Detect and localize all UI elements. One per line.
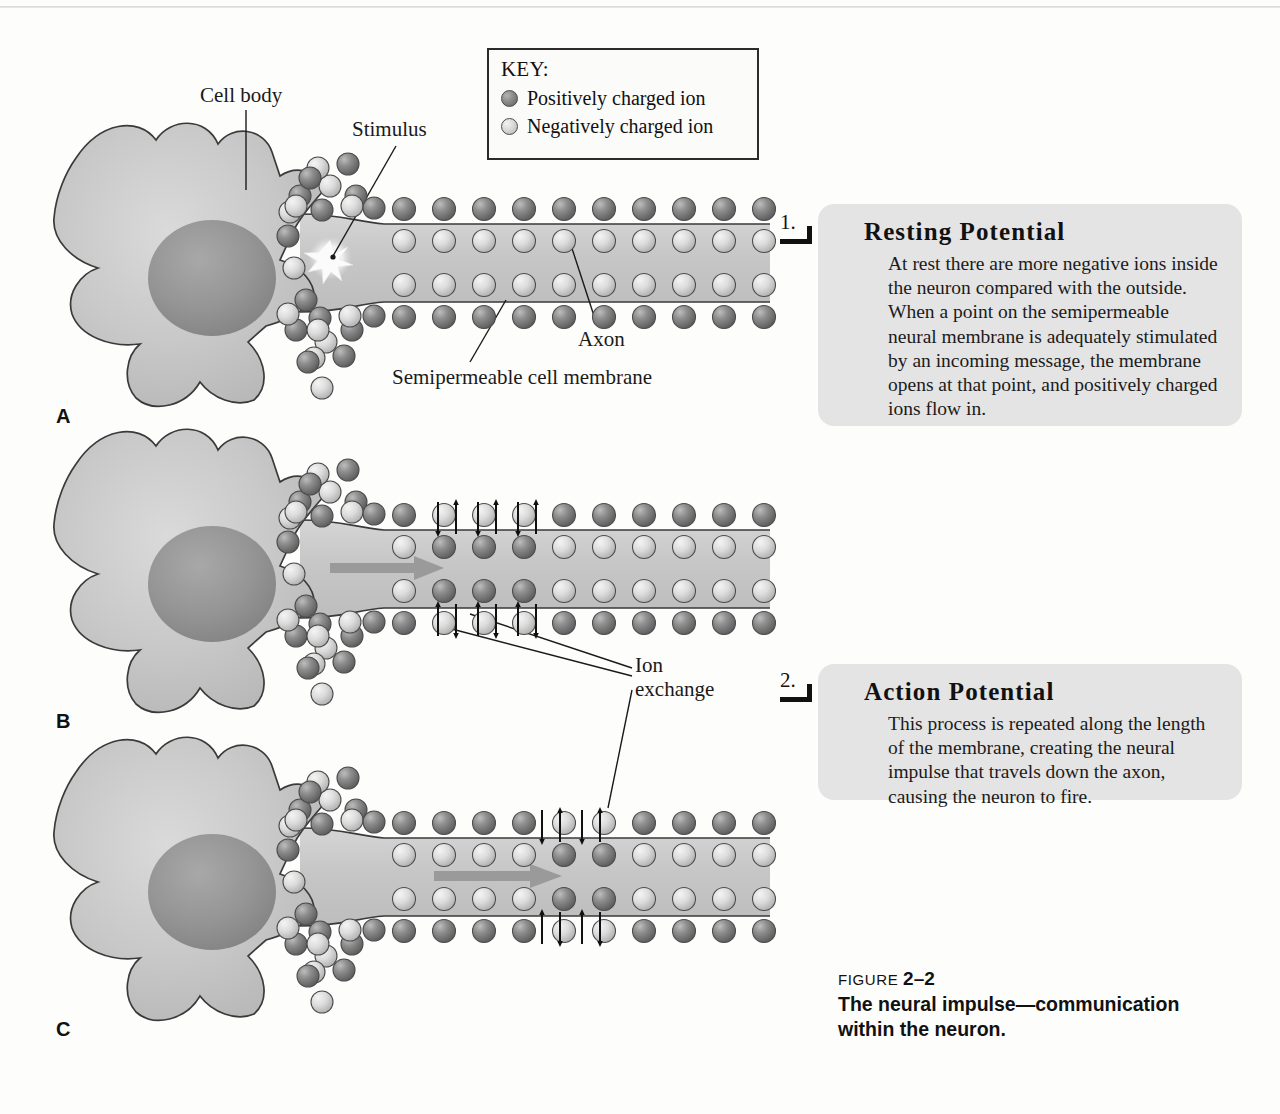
positive-ion: [713, 612, 736, 635]
neuron-illustration: [0, 0, 1280, 1114]
label-semipermeable-cell-membrane: Semipermeable cell membrane: [392, 366, 652, 390]
positive-ion: [673, 306, 696, 329]
positive-ion: [297, 351, 319, 373]
key-title: KEY:: [501, 57, 747, 82]
negative-ion: [283, 871, 305, 893]
positive-ion: [433, 306, 456, 329]
positive-ion: [553, 306, 576, 329]
positive-ion: [363, 611, 385, 633]
positive-ion: [393, 920, 416, 943]
positive-ion: [311, 813, 333, 835]
figure-number-line: FIGURE 2–2: [838, 968, 1238, 990]
negative-ion: [633, 536, 656, 559]
step-marker-2-tick: [807, 684, 812, 702]
positive-ion: [593, 888, 616, 911]
step-marker-2-number: 2.: [780, 668, 796, 693]
key-entry-positive: Positively charged ion: [501, 87, 747, 110]
negative-ion: [593, 580, 616, 603]
positive-ion: [363, 197, 385, 219]
negative-ion: [633, 580, 656, 603]
positive-ion: [513, 306, 536, 329]
negative-ion: [673, 888, 696, 911]
positive-ion: [713, 920, 736, 943]
negative-ion: [341, 809, 363, 831]
positive-ion: [593, 612, 616, 635]
negative-ion: [277, 917, 299, 939]
negative-ion: [553, 920, 576, 943]
negative-ion: [633, 230, 656, 253]
positive-ion: [673, 812, 696, 835]
positive-ion: [713, 198, 736, 221]
negative-ion: [513, 504, 536, 527]
negative-ion: [285, 809, 307, 831]
positive-ion: [433, 198, 456, 221]
callout-resting-potential: Resting Potential At rest there are more…: [818, 204, 1242, 426]
negative-ion: [713, 536, 736, 559]
label-ion-exchange-line1: Ion: [635, 654, 714, 678]
positive-ion: [513, 580, 536, 603]
positive-ion: [433, 536, 456, 559]
positive-ion: [299, 473, 321, 495]
negative-ion: [593, 274, 616, 297]
figure-canvas: Cell body Stimulus Axon Semipermeable ce…: [0, 0, 1280, 1114]
figure-number-prefix: FIGURE: [838, 971, 898, 988]
positive-ion: [333, 959, 355, 981]
positive-ion: [297, 965, 319, 987]
negative-ion: [753, 888, 776, 911]
positive-ion: [393, 198, 416, 221]
negative-ion: [633, 888, 656, 911]
negative-ion: [393, 274, 416, 297]
negative-ion: [713, 844, 736, 867]
positive-ion: [433, 812, 456, 835]
negative-ion: [513, 230, 536, 253]
positive-ion: [363, 919, 385, 941]
negative-ion: [513, 888, 536, 911]
positive-ion: [333, 345, 355, 367]
negative-ion: [553, 274, 576, 297]
positive-ion: [513, 812, 536, 835]
negative-ion: [633, 844, 656, 867]
positive-ion: [393, 504, 416, 527]
step-marker-1-number: 1.: [780, 210, 796, 235]
negative-ion: [285, 195, 307, 217]
negative-ion: [713, 230, 736, 253]
negative-ion: [553, 812, 576, 835]
positive-ion: [337, 153, 359, 175]
positive-ion: [633, 198, 656, 221]
positive-ion: [363, 305, 385, 327]
negative-ion: [473, 274, 496, 297]
negative-ion: [285, 501, 307, 523]
positive-ion: [513, 536, 536, 559]
positive-ion: [295, 595, 317, 617]
positive-ion: [363, 811, 385, 833]
positive-ion: [753, 306, 776, 329]
positive-ion: [473, 536, 496, 559]
positive-ion: [473, 580, 496, 603]
negative-ion: [753, 230, 776, 253]
positive-ion: [337, 459, 359, 481]
positive-ion: [593, 504, 616, 527]
positive-ion: [673, 612, 696, 635]
figure-title: The neural impulse—communication within …: [838, 992, 1238, 1042]
negative-ion: [473, 504, 496, 527]
negative-ion: [753, 274, 776, 297]
negative-ion: [593, 536, 616, 559]
key-entry-negative: Negatively charged ion: [501, 115, 747, 138]
callout-action-potential: Action Potential This process is repeate…: [818, 664, 1242, 800]
negative-ion: [393, 888, 416, 911]
positive-ion: [473, 198, 496, 221]
positive-ion: [753, 920, 776, 943]
positive-ion: [593, 844, 616, 867]
negative-ion: [339, 305, 361, 327]
positive-ion: [753, 612, 776, 635]
negative-ion: [753, 536, 776, 559]
negative-ion: [393, 230, 416, 253]
negative-ion: [513, 612, 536, 635]
positive-ion: [753, 504, 776, 527]
positive-ion: [713, 306, 736, 329]
positive-ion: [753, 812, 776, 835]
negative-ion: [633, 274, 656, 297]
negative-ion: [433, 844, 456, 867]
negative-ion: [553, 536, 576, 559]
negative-ion: [393, 536, 416, 559]
